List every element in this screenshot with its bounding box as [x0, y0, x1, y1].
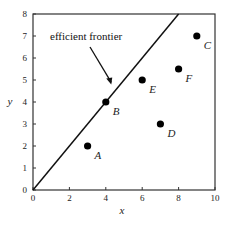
y-tick-label: 0	[23, 185, 28, 195]
y-axis-label: y	[7, 95, 13, 107]
point-label: E	[148, 83, 156, 95]
x-axis-label: x	[119, 204, 125, 216]
scatter-chart: 0246810012345678 ABCDEF efficient fronti…	[0, 0, 229, 227]
y-tick-label: 2	[23, 141, 28, 151]
data-point	[175, 65, 182, 72]
point-label: A	[94, 149, 102, 161]
data-point	[193, 32, 200, 39]
x-tick-label: 2	[67, 193, 72, 203]
data-point	[84, 142, 91, 149]
data-point	[139, 76, 146, 83]
x-tick-label: 4	[104, 193, 109, 203]
data-point	[157, 120, 164, 127]
x-tick-label: 8	[176, 193, 181, 203]
point-label: B	[113, 105, 120, 117]
point-label: F	[185, 72, 193, 84]
x-tick-label: 0	[31, 193, 36, 203]
x-tick-label: 10	[211, 193, 221, 203]
y-tick-label: 1	[23, 163, 28, 173]
y-tick-label: 8	[23, 9, 28, 19]
y-tick-label: 3	[23, 119, 28, 129]
annotation: efficient frontier	[50, 30, 123, 84]
point-label: D	[166, 127, 175, 139]
y-tick-label: 7	[23, 31, 28, 41]
x-tick-label: 6	[140, 193, 145, 203]
data-point	[102, 98, 109, 105]
y-tick-label: 6	[23, 53, 28, 63]
annotation-text: efficient frontier	[50, 30, 123, 42]
point-label: C	[204, 39, 212, 51]
y-tick-label: 5	[23, 75, 28, 85]
y-tick-label: 4	[23, 97, 28, 107]
